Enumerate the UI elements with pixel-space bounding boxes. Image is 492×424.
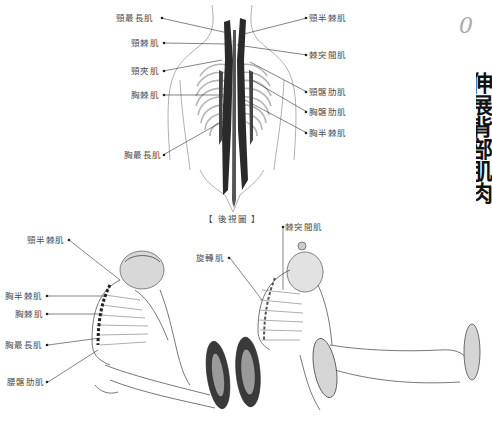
label-iliocostalis-thoracis: 胸髂肋肌 (309, 107, 346, 117)
back-view-caption: 【 後視圖 】 (204, 212, 261, 224)
left-figure-shoes (202, 336, 263, 410)
label-iliocostalis-cervicis: 頸髂肋肌 (309, 87, 346, 97)
label-semispinalis-thoracis: 胸半棘肌 (309, 128, 346, 138)
back-view-figure (168, 5, 296, 212)
left-seated-figure (92, 251, 215, 408)
right-seated-figure (258, 242, 468, 410)
label-rotatores: 旋轉肌 (196, 253, 224, 263)
label-semispinalis-thoracis-side: 胸半棘肌 (5, 291, 42, 301)
label-cervical-longissimus: 頸最長肌 (116, 13, 153, 23)
label-interspinales: 棘突間肌 (309, 50, 346, 60)
label-semispinalis-cervicis-side: 頸半棘肌 (27, 235, 64, 245)
anatomy-illustration-page: 頸最長肌 頸棘肌 頸夾肌 胸棘肌 胸最長肌 頸半棘肌 棘突間肌 頸髂肋肌 胸髂肋… (0, 0, 492, 424)
label-iliocostalis-lumborum: 腰髂肋肌 (7, 377, 44, 387)
label-thoracic-spinalis: 胸棘肌 (131, 90, 159, 100)
label-interspinales-side: 棘突間肌 (285, 222, 322, 232)
page-section-number: 0 (459, 14, 473, 38)
vertical-section-title: 伸展背部肌肉 (476, 72, 492, 204)
label-semispinalis-cervicis: 頸半棘肌 (309, 13, 346, 23)
label-splenius-cervicis: 頸夾肌 (131, 66, 159, 76)
label-thoracic-longissimus-side: 胸最長肌 (5, 340, 42, 350)
label-thoracic-spinalis-side: 胸棘肌 (15, 309, 43, 319)
label-thoracic-longissimus: 胸最長肌 (124, 150, 161, 160)
right-figure-shoes (309, 324, 480, 399)
label-cervical-spinalis: 頸棘肌 (131, 38, 159, 48)
